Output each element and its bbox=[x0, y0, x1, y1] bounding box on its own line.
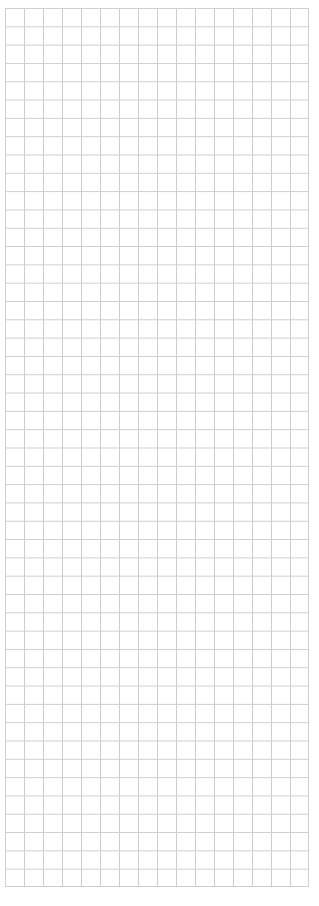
graph-paper-grid bbox=[5, 8, 309, 887]
